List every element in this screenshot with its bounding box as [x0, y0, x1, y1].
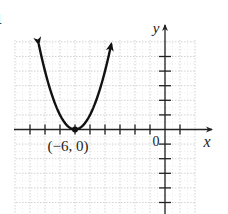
parabola-graph: (−6, 0) 0 x y	[0, 0, 228, 214]
origin-label: 0	[153, 134, 160, 149]
y-axis-label: y	[151, 20, 160, 36]
vertex-label: (−6, 0)	[48, 138, 89, 155]
axes	[14, 25, 212, 214]
x-axis-label: x	[202, 133, 210, 150]
vertex-point	[72, 127, 78, 133]
